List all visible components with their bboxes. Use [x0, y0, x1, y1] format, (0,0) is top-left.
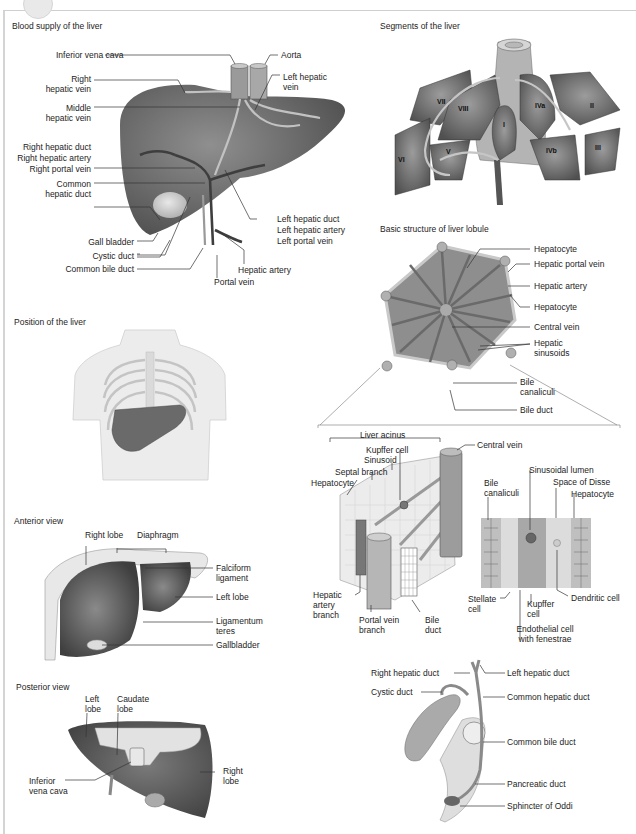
label-sphincter-of-oddi: Sphincter of Oddi [507, 801, 573, 811]
label-biliary-right-hepatic-duct: Right hepatic duct [371, 668, 439, 678]
label-biliary-cystic-duct: Cystic duct [371, 687, 413, 697]
biliary-illustration [0, 0, 636, 834]
sphincter-of-oddi-shape [444, 796, 460, 806]
label-biliary-common-hepatic-duct: Common hepatic duct [507, 692, 590, 702]
label-pancreatic-duct: Pancreatic duct [507, 779, 566, 789]
label-biliary-common-bile-duct: Common bile duct [507, 737, 576, 747]
label-biliary-left-hepatic-duct: Left hepatic duct [507, 668, 569, 678]
